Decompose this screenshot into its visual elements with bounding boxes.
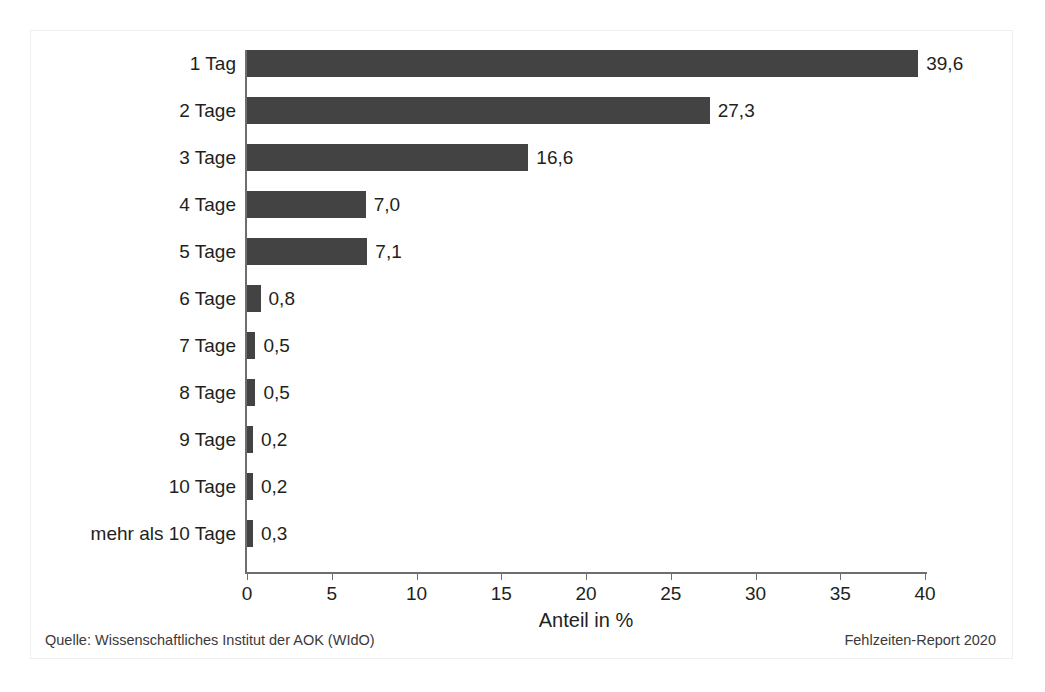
bar bbox=[247, 191, 366, 218]
bar-row: 5 Tage7,1 bbox=[247, 238, 925, 265]
x-tick-mark bbox=[840, 572, 841, 580]
bar bbox=[247, 520, 253, 547]
bar-value-label: 0,3 bbox=[261, 524, 287, 543]
bar-value-label: 39,6 bbox=[926, 54, 963, 73]
bar-value-label: 0,2 bbox=[261, 477, 287, 496]
bar bbox=[247, 426, 253, 453]
bar-row: 10 Tage0,2 bbox=[247, 473, 925, 500]
category-label: 9 Tage bbox=[179, 430, 236, 449]
footer-report: Fehlzeiten-Report 2020 bbox=[844, 632, 996, 648]
bar-value-label: 0,5 bbox=[263, 383, 289, 402]
bar-row: 8 Tage0,5 bbox=[247, 379, 925, 406]
category-label: 5 Tage bbox=[179, 242, 236, 261]
bar bbox=[247, 50, 918, 77]
category-label: 8 Tage bbox=[179, 383, 236, 402]
category-label: 6 Tage bbox=[179, 289, 236, 308]
category-label: 7 Tage bbox=[179, 336, 236, 355]
bar-value-label: 0,2 bbox=[261, 430, 287, 449]
bar-row: 3 Tage16,6 bbox=[247, 144, 925, 171]
bar-value-label: 0,5 bbox=[263, 336, 289, 355]
x-tick-mark bbox=[332, 572, 333, 580]
x-tick-mark bbox=[586, 572, 587, 580]
bar bbox=[247, 332, 255, 359]
x-tick-mark bbox=[247, 572, 248, 580]
bar-value-label: 27,3 bbox=[718, 101, 755, 120]
bar-value-label: 0,8 bbox=[269, 289, 295, 308]
bar-row: 2 Tage27,3 bbox=[247, 97, 925, 124]
footer-source: Quelle: Wissenschaftliches Institut der … bbox=[45, 632, 375, 648]
bar-row: 6 Tage0,8 bbox=[247, 285, 925, 312]
bar bbox=[247, 473, 253, 500]
x-tick-mark bbox=[501, 572, 502, 580]
x-tick-mark bbox=[756, 572, 757, 580]
x-tick-label: 25 bbox=[660, 584, 681, 603]
x-tick-label: 15 bbox=[491, 584, 512, 603]
plot-area: 1 Tag39,62 Tage27,33 Tage16,64 Tage7,05 … bbox=[247, 50, 925, 572]
x-tick-label: 5 bbox=[326, 584, 337, 603]
x-tick-label: 20 bbox=[575, 584, 596, 603]
bar-value-label: 16,6 bbox=[536, 148, 573, 167]
bar-row: 1 Tag39,6 bbox=[247, 50, 925, 77]
bar bbox=[247, 144, 528, 171]
x-tick-mark bbox=[671, 572, 672, 580]
x-tick-label: 35 bbox=[830, 584, 851, 603]
chart-figure: 1 Tag39,62 Tage27,33 Tage16,64 Tage7,05 … bbox=[30, 30, 1013, 659]
category-label: 10 Tage bbox=[169, 477, 236, 496]
x-axis-title: Anteil in % bbox=[247, 609, 925, 632]
x-tick-label: 30 bbox=[745, 584, 766, 603]
bar bbox=[247, 285, 261, 312]
category-label: 4 Tage bbox=[179, 195, 236, 214]
x-tick-mark bbox=[417, 572, 418, 580]
x-tick-label: 0 bbox=[242, 584, 253, 603]
category-label: 3 Tage bbox=[179, 148, 236, 167]
category-label: 1 Tag bbox=[190, 54, 236, 73]
bar bbox=[247, 97, 710, 124]
bar-row: 7 Tage0,5 bbox=[247, 332, 925, 359]
bar bbox=[247, 238, 367, 265]
bar-row: 4 Tage7,0 bbox=[247, 191, 925, 218]
x-tick-mark bbox=[925, 572, 926, 580]
bar-value-label: 7,1 bbox=[375, 242, 401, 261]
category-label: mehr als 10 Tage bbox=[91, 524, 236, 543]
bar-row: 9 Tage0,2 bbox=[247, 426, 925, 453]
bar bbox=[247, 379, 255, 406]
x-tick-label: 40 bbox=[914, 584, 935, 603]
bar-row: mehr als 10 Tage0,3 bbox=[247, 520, 925, 547]
category-label: 2 Tage bbox=[179, 101, 236, 120]
x-tick-label: 10 bbox=[406, 584, 427, 603]
bar-value-label: 7,0 bbox=[374, 195, 400, 214]
